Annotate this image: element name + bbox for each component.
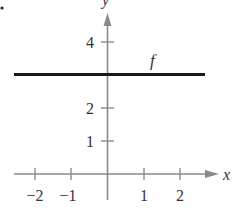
y-tick-label: 2 <box>86 100 94 117</box>
y-axis-label: y <box>100 0 110 9</box>
y-tick-label: 4 <box>86 34 94 51</box>
x-tick-label: 2 <box>176 187 184 204</box>
x-axis-arrow-icon <box>205 170 219 178</box>
y-axis-arrow-icon <box>104 13 112 26</box>
x-tick-label: −1 <box>59 187 76 204</box>
chart-plot: y x −2 −1 1 2 1 2 4 f <box>0 0 237 215</box>
y-tick-label: 1 <box>86 133 94 150</box>
bullet-dot <box>0 6 3 9</box>
x-axis-label: x <box>222 166 230 183</box>
x-tick-label: −2 <box>26 187 43 204</box>
series-f-label: f <box>150 51 157 70</box>
x-tick-label: 1 <box>140 187 148 204</box>
